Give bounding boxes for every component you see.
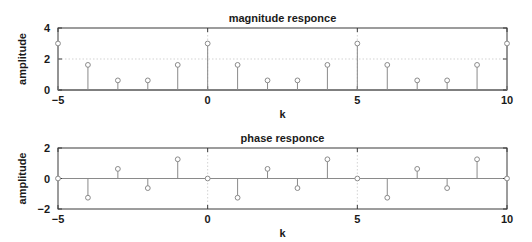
stem-marker: [265, 166, 270, 171]
phase-title: phase responce: [241, 132, 325, 144]
stem-marker: [175, 62, 180, 67]
stem-marker: [355, 176, 360, 181]
stem-marker: [205, 41, 210, 46]
y-axis-label: amplitude: [16, 33, 28, 85]
y-tick-label: 0: [44, 173, 50, 185]
y-tick-label: −2: [37, 203, 50, 215]
x-tick-label: 10: [501, 213, 513, 225]
stem-marker: [355, 41, 360, 46]
stem-marker: [205, 176, 210, 181]
stem-marker: [505, 176, 510, 181]
phase-plot: −50510−202phase responcekamplitude: [16, 132, 513, 239]
stem-marker: [235, 195, 240, 200]
stem-marker: [295, 186, 300, 191]
stem-marker: [175, 157, 180, 162]
stem-marker: [145, 186, 150, 191]
x-tick-label: 10: [501, 94, 513, 106]
y-tick-label: 4: [44, 22, 51, 34]
magnitude-title: magnitude responce: [229, 12, 337, 24]
stem-marker: [415, 166, 420, 171]
stem-marker: [445, 186, 450, 191]
x-tick-label: 0: [205, 94, 211, 106]
y-tick-label: 2: [44, 53, 50, 65]
x-axis-label: k: [279, 227, 286, 239]
x-tick-label: −5: [52, 213, 65, 225]
stem-marker: [325, 62, 330, 67]
x-axis-label: k: [279, 108, 286, 120]
stem-marker: [505, 41, 510, 46]
stem-marker: [385, 62, 390, 67]
x-tick-label: −5: [52, 94, 65, 106]
stem-marker: [445, 78, 450, 83]
stem-marker: [86, 62, 91, 67]
figure-canvas: −50510024magnitude responcekamplitude −5…: [0, 0, 532, 242]
stem-marker: [385, 195, 390, 200]
stem-marker: [325, 157, 330, 162]
stem-marker: [475, 62, 480, 67]
x-tick-label: 5: [354, 94, 360, 106]
stem-marker: [475, 157, 480, 162]
x-tick-label: 5: [354, 213, 360, 225]
magnitude-plot: −50510024magnitude responcekamplitude: [16, 12, 513, 120]
figure: −50510024magnitude responcekamplitude −5…: [0, 0, 532, 242]
y-tick-label: 2: [44, 142, 50, 154]
stem-marker: [235, 62, 240, 67]
stem-marker: [265, 78, 270, 83]
stem-marker: [56, 176, 61, 181]
stem-marker: [145, 78, 150, 83]
stem-marker: [415, 78, 420, 83]
stem-marker: [56, 41, 61, 46]
stem-marker: [115, 78, 120, 83]
stem-marker: [86, 195, 91, 200]
y-tick-label: 0: [44, 84, 50, 96]
y-axis-label: amplitude: [16, 153, 28, 205]
x-tick-label: 0: [205, 213, 211, 225]
stem-marker: [115, 166, 120, 171]
stem-marker: [295, 78, 300, 83]
